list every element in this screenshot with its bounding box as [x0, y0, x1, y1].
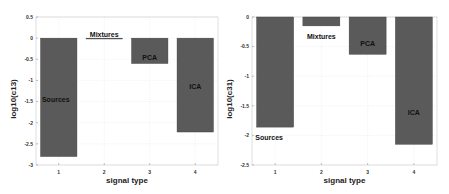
- ytick-label: 0: [30, 35, 33, 41]
- ytick-label: -1.5: [24, 98, 33, 104]
- xtick-label: 2: [320, 169, 323, 175]
- bar-label: ICA: [189, 83, 201, 90]
- chart-panel-c13: SourcesMixturesPCAICA0.50-0.5-1-1.5-2-2.…: [9, 14, 218, 185]
- ytick-label: -2: [29, 120, 34, 126]
- ytick-label: -2: [245, 132, 250, 138]
- x-axis-label: signal type: [324, 176, 366, 185]
- bar-label: Mixtures: [307, 33, 336, 40]
- xtick-label: 4: [194, 169, 197, 175]
- bar-label: Sources: [42, 96, 70, 103]
- ytick-label: -1.5: [240, 103, 249, 109]
- ytick-label: 0.5: [26, 14, 33, 20]
- ytick-label: 0: [246, 14, 249, 20]
- ytick-label: -0.5: [240, 43, 249, 49]
- ytick-label: -2.5: [24, 141, 33, 147]
- ytick-label: -3: [29, 162, 34, 168]
- bar-mixtures: [86, 38, 122, 39]
- bar-label: ICA: [408, 109, 420, 116]
- xtick-label: 3: [148, 169, 151, 175]
- xtick-label: 1: [57, 169, 60, 175]
- y-axis-label: log10(c31): [225, 79, 234, 119]
- bar-mixtures: [303, 17, 340, 26]
- xtick-label: 1: [274, 169, 277, 175]
- bar-sources: [257, 17, 294, 127]
- ytick-label: -1: [29, 77, 34, 83]
- bar-label: PCA: [142, 54, 157, 61]
- xtick-label: 4: [412, 169, 415, 175]
- ytick-label: -0.5: [24, 56, 33, 62]
- y-axis-label: log10(c13): [9, 79, 18, 119]
- chart-figure: SourcesMixturesPCAICA0.50-0.5-1-1.5-2-2.…: [0, 0, 449, 194]
- xtick-label: 2: [103, 169, 106, 175]
- bar-label: Mixtures: [90, 31, 119, 38]
- x-axis-label: signal type: [106, 176, 148, 185]
- xtick-label: 3: [366, 169, 369, 175]
- bar-pca: [349, 17, 386, 54]
- bar-label: PCA: [360, 40, 375, 47]
- ytick-label: -2.5: [240, 162, 249, 168]
- bar-ica: [395, 17, 432, 144]
- bar-label: Sources: [255, 134, 283, 141]
- chart-panel-c31: SourcesMixturesPCAICA0-0.5-1-1.5-2-2.512…: [225, 14, 437, 185]
- ytick-label: -1: [245, 73, 250, 79]
